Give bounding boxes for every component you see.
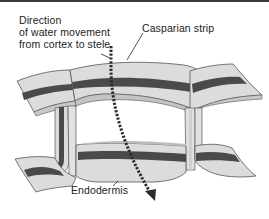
- direction-label-line-3: from cortex to stele: [19, 38, 110, 50]
- center-radial-wall: [185, 108, 195, 170]
- direction-label-line-1: Direction: [19, 14, 110, 26]
- diagram-canvas: Direction of water movement from cortex …: [0, 0, 269, 219]
- endodermis-label: Endodermis: [71, 184, 128, 196]
- casparian-leader-line: [127, 33, 143, 60]
- direction-leader-line: [101, 54, 110, 58]
- upper-wall-right: [190, 64, 262, 112]
- lower-wall-right: [195, 144, 256, 177]
- upper-wall-middle: [70, 62, 198, 112]
- lower-wall-middle: [76, 141, 186, 182]
- direction-label-line-2: of water movement: [19, 26, 110, 38]
- direction-label: Direction of water movement from cortex …: [19, 14, 110, 50]
- casparian-strip-label: Casparian strip: [142, 22, 214, 34]
- arrowhead-icon: [145, 189, 156, 201]
